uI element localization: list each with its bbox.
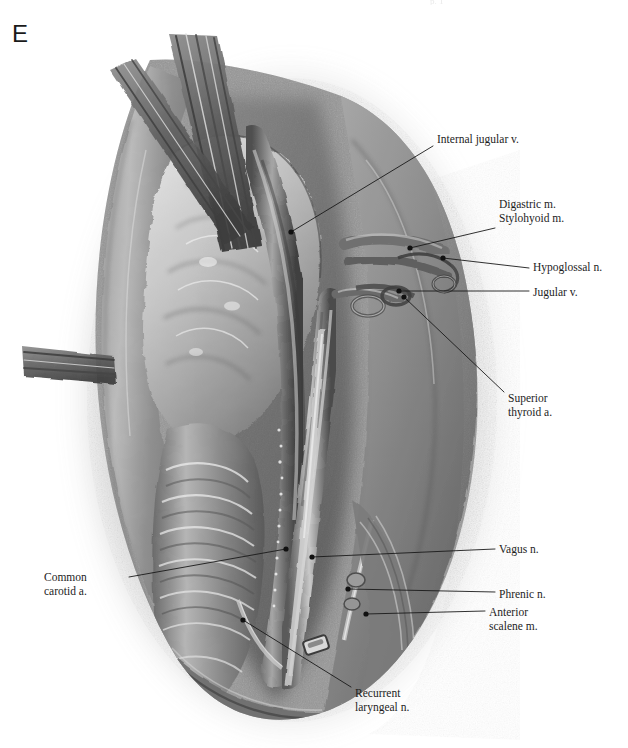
label-line: laryngeal n.	[355, 701, 409, 715]
label-line: Jugular v.	[533, 286, 578, 300]
label-recurrent-laryngeal-n: Recurrentlaryngeal n.	[355, 687, 409, 714]
label-anterior-scalene-m: Anteriorscalene m.	[489, 606, 538, 633]
label-superior-thyroid-a: Superiorthyroid a.	[508, 392, 552, 419]
label-jugular-v: Jugular v.	[533, 286, 578, 300]
label-digastric-stylohyoid-m: Digastric m.Stylohyoid m.	[499, 198, 564, 225]
label-line: Anterior	[489, 606, 538, 620]
label-line: Stylohyoid m.	[499, 212, 564, 226]
label-line: Common	[44, 571, 87, 585]
label-vagus-n: Vagus n.	[499, 543, 539, 557]
label-line: Hypoglossal n.	[533, 261, 602, 275]
illustration-artwork	[0, 0, 628, 748]
label-line: Internal jugular v.	[437, 133, 519, 147]
label-line: Digastric m.	[499, 198, 564, 212]
label-line: Phrenic n.	[499, 588, 546, 602]
label-line: carotid a.	[44, 585, 87, 599]
label-line: Recurrent	[355, 687, 409, 701]
label-line: thyroid a.	[508, 406, 552, 420]
panel-letter: E	[12, 22, 29, 46]
label-line: Superior	[508, 392, 552, 406]
label-common-carotid-a: Commoncarotid a.	[44, 571, 87, 598]
label-phrenic-n: Phrenic n.	[499, 588, 546, 602]
label-hypoglossal-n: Hypoglossal n.	[533, 261, 602, 275]
anatomical-figure-panel: p. 1	[0, 0, 628, 748]
label-internal-jugular-v: Internal jugular v.	[437, 133, 519, 147]
label-line: Vagus n.	[499, 543, 539, 557]
label-line: scalene m.	[489, 620, 538, 634]
